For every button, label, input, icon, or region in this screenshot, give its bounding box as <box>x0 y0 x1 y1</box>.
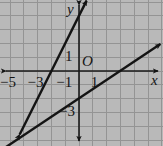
y-tick-label-minus3: −3 <box>59 104 75 119</box>
axes <box>6 5 158 141</box>
shallow-line <box>0 44 160 146</box>
x-tick-label-minus5: −5 <box>0 75 16 90</box>
graph-figure: −5 −3 −1 1 1 −3 O x y <box>0 0 163 146</box>
x-tick-label-minus1: −1 <box>56 75 72 90</box>
graph-plot-layer <box>0 0 163 146</box>
origin-label: O <box>82 54 93 69</box>
y-tick-label-1: 1 <box>65 49 73 64</box>
x-tick-label-1: 1 <box>91 75 99 90</box>
x-tick-label-minus3: −3 <box>28 75 44 90</box>
plotted-lines <box>0 1 160 146</box>
x-axis-label: x <box>151 73 158 88</box>
y-axis-label: y <box>67 2 74 17</box>
